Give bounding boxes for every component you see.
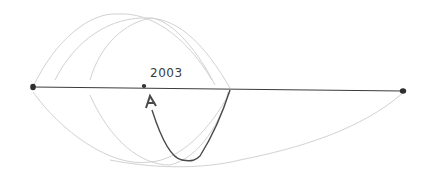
point-label-2003: 2003 [150,66,183,80]
curved-arrow [146,90,230,161]
lower-arc-1 [33,92,230,163]
arrow-head-icon [146,96,156,108]
left-endpoint-dot [30,84,36,90]
right-endpoint-dot [400,88,406,94]
point-2003-dot [142,84,146,88]
timeline-diagram [0,0,434,180]
upper-arc-1 [33,14,212,87]
upper-arc-2 [55,18,230,88]
timeline-line [33,87,403,91]
arrow-shaft [152,90,230,161]
